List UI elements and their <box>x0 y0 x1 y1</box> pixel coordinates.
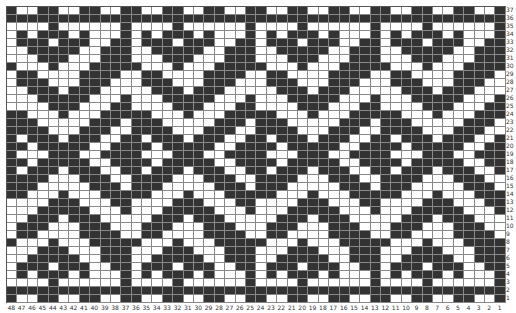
chart-cell <box>163 95 173 103</box>
chart-cell <box>173 143 183 151</box>
chart-cell <box>204 255 214 263</box>
chart-cell <box>236 247 246 255</box>
chart-cell <box>267 271 277 279</box>
chart-cell <box>204 15 214 23</box>
chart-cell <box>277 183 287 191</box>
chart-cell <box>111 15 121 23</box>
chart-cell <box>329 31 339 39</box>
chart-cell <box>340 175 350 183</box>
chart-cell <box>433 247 443 255</box>
chart-cell <box>204 63 214 71</box>
chart-cell <box>412 215 422 223</box>
chart-cell <box>329 23 339 31</box>
chart-cell <box>69 47 79 55</box>
chart-cell <box>225 39 235 47</box>
chart-cell <box>381 263 391 271</box>
chart-cell <box>433 223 443 231</box>
chart-cell <box>464 39 474 47</box>
chart-cell <box>246 47 256 55</box>
chart-cell <box>412 63 422 71</box>
chart-cell <box>225 79 235 87</box>
chart-cell <box>204 47 214 55</box>
chart-cell <box>246 279 256 287</box>
chart-cell <box>111 23 121 31</box>
chart-cell <box>236 135 246 143</box>
chart-cell <box>69 175 79 183</box>
chart-cell <box>319 151 329 159</box>
chart-cell <box>121 287 131 295</box>
chart-cell <box>49 207 59 215</box>
chart-cell <box>371 151 381 159</box>
chart-cell <box>69 247 79 255</box>
chart-cell <box>101 151 111 159</box>
chart-cell <box>350 111 360 119</box>
column-label: 35 <box>141 304 151 311</box>
chart-cell <box>215 159 225 167</box>
chart-cell <box>184 71 194 79</box>
column-label: 19 <box>307 304 317 311</box>
chart-cell <box>28 295 38 303</box>
chart-cell <box>485 103 495 111</box>
chart-cell <box>111 39 121 47</box>
chart-cell <box>256 223 266 231</box>
chart-cell <box>485 79 495 87</box>
chart-cell <box>256 279 266 287</box>
chart-cell <box>277 127 287 135</box>
chart-cell <box>225 175 235 183</box>
chart-cell <box>132 263 142 271</box>
chart-cell <box>121 263 131 271</box>
chart-cell <box>90 63 100 71</box>
chart-cell <box>17 167 27 175</box>
chart-cell <box>298 63 308 71</box>
chart-cell <box>329 71 339 79</box>
chart-cell <box>267 247 277 255</box>
chart-cell <box>495 255 505 263</box>
chart-cell <box>173 207 183 215</box>
chart-cell <box>381 247 391 255</box>
chart-cell <box>111 151 121 159</box>
chart-cell <box>412 143 422 151</box>
chart-cell <box>28 159 38 167</box>
chart-cell <box>475 231 485 239</box>
column-label: 27 <box>224 304 234 311</box>
chart-cell <box>101 255 111 263</box>
chart-cell <box>7 223 17 231</box>
chart-cell <box>288 71 298 79</box>
chart-cell <box>267 167 277 175</box>
chart-cell <box>485 95 495 103</box>
chart-cell <box>402 287 412 295</box>
chart-cell <box>246 103 256 111</box>
chart-cell <box>38 215 48 223</box>
chart-cell <box>28 103 38 111</box>
chart-cell <box>28 23 38 31</box>
chart-cell <box>246 231 256 239</box>
chart-cell <box>298 127 308 135</box>
chart-cell <box>340 95 350 103</box>
chart-cell <box>90 15 100 23</box>
chart-cell <box>215 167 225 175</box>
chart-cell <box>288 95 298 103</box>
chart-cell <box>371 39 381 47</box>
chart-cell <box>17 7 27 15</box>
chart-cell <box>142 199 152 207</box>
chart-cell <box>423 247 433 255</box>
chart-cell <box>340 239 350 247</box>
chart-cell <box>236 95 246 103</box>
chart-cell <box>90 47 100 55</box>
chart-cell <box>132 119 142 127</box>
chart-cell <box>38 199 48 207</box>
column-label: 32 <box>172 304 182 311</box>
chart-cell <box>402 79 412 87</box>
chart-cell <box>80 151 90 159</box>
chart-cell <box>267 31 277 39</box>
chart-cell <box>267 255 277 263</box>
chart-cell <box>173 127 183 135</box>
chart-cell <box>246 119 256 127</box>
chart-cell <box>288 111 298 119</box>
chart-cell <box>69 199 79 207</box>
chart-cell <box>329 167 339 175</box>
chart-cell <box>121 271 131 279</box>
chart-cell <box>433 239 443 247</box>
chart-cell <box>80 215 90 223</box>
chart-cell <box>443 47 453 55</box>
